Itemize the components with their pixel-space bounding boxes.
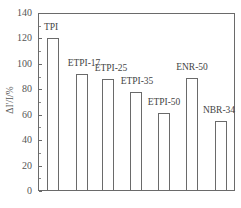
y-minor-tick: [39, 77, 41, 78]
y-tick-label: 100: [8, 59, 32, 69]
bar-label: ENR-50: [176, 62, 208, 72]
bar-etpi-35: [130, 92, 142, 191]
y-minor-tick: [39, 102, 41, 103]
bar-etpi-17: [76, 74, 88, 191]
y-tick-mark: [39, 38, 42, 39]
y-tick-label: 0: [8, 186, 32, 196]
bar-etpi-50: [158, 113, 170, 191]
bar-label: ETPI-35: [121, 76, 154, 86]
y-minor-tick: [39, 153, 41, 154]
y-minor-tick: [39, 127, 41, 128]
y-tick-mark: [39, 89, 42, 90]
y-tick-label: 40: [8, 135, 32, 145]
y-minor-tick: [39, 51, 41, 52]
y-minor-tick: [39, 26, 41, 27]
y-tick-mark: [39, 13, 42, 14]
y-tick-mark: [39, 166, 42, 167]
bar-etpi-25: [102, 79, 114, 191]
y-tick-label: 20: [8, 161, 32, 171]
y-tick-mark: [39, 115, 42, 116]
y-tick-label: 120: [8, 33, 32, 43]
y-tick-label: 140: [8, 8, 32, 18]
bar-label: NBR-34: [203, 105, 235, 115]
bar-nbr-34: [215, 121, 227, 191]
y-tick-mark: [39, 191, 42, 192]
y-tick-mark: [39, 140, 42, 141]
bar-label: TPI: [44, 22, 58, 32]
y-minor-tick: [39, 178, 41, 179]
y-tick-mark: [39, 64, 42, 65]
bar-enr-50: [186, 78, 198, 191]
bar-label: ETPI-50: [148, 97, 181, 107]
y-axis-label: ΔI'/I/%: [5, 86, 15, 113]
bar-label: ETPI-25: [95, 63, 128, 73]
bar-tpi: [47, 38, 59, 191]
